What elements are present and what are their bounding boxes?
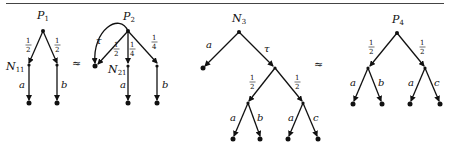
leaf bbox=[316, 137, 321, 142]
svg-text:b: b bbox=[61, 79, 67, 90]
leaf bbox=[438, 102, 443, 107]
svg-text:1: 1 bbox=[295, 74, 299, 82]
label-n3: N3 bbox=[231, 12, 246, 26]
leaf bbox=[27, 101, 32, 106]
label-p1: P1 bbox=[36, 9, 49, 23]
leaf bbox=[55, 101, 60, 106]
svg-text:1: 1 bbox=[152, 34, 156, 42]
leaf bbox=[286, 137, 291, 142]
svg-text:τ: τ bbox=[96, 35, 102, 46]
svg-text:τ: τ bbox=[264, 43, 270, 54]
approx-symbol-1: ≈ bbox=[72, 57, 81, 70]
svg-text:2: 2 bbox=[26, 46, 30, 54]
svg-text:1: 1 bbox=[26, 37, 30, 45]
leaf bbox=[258, 137, 263, 142]
svg-text:b: b bbox=[257, 112, 263, 123]
tree-p4: P4 1 2 1 2 a b a c bbox=[350, 13, 443, 107]
svg-text:1: 1 bbox=[420, 39, 424, 47]
svg-text:2: 2 bbox=[295, 83, 299, 91]
svg-text:2: 2 bbox=[250, 83, 254, 91]
tree-n3: N3 a τ 1 2 1 2 a b a c bbox=[201, 12, 321, 142]
tree-p1: P1 1 2 1 2 N11 a b bbox=[5, 9, 67, 106]
leaf bbox=[201, 66, 206, 71]
leaf bbox=[231, 137, 236, 142]
svg-text:c: c bbox=[434, 77, 440, 88]
label-n11: N11 bbox=[5, 60, 25, 74]
svg-text:c: c bbox=[313, 112, 319, 123]
leaf bbox=[126, 101, 131, 106]
svg-text:1: 1 bbox=[55, 37, 59, 45]
label-p4: P4 bbox=[391, 13, 404, 27]
approx-symbol-2: ≈ bbox=[314, 58, 323, 71]
svg-text:1: 1 bbox=[114, 41, 118, 49]
svg-text:1: 1 bbox=[369, 39, 373, 47]
label-p2: P2 bbox=[122, 10, 135, 24]
leaf bbox=[351, 102, 356, 107]
svg-text:1: 1 bbox=[250, 74, 254, 82]
process-trees-diagram: P1 1 2 1 2 N11 a b ≈ P2 τ 1 2 1 4 1 bbox=[0, 0, 449, 159]
svg-text:1: 1 bbox=[130, 41, 134, 49]
svg-text:a: a bbox=[350, 77, 356, 88]
svg-text:a: a bbox=[19, 79, 25, 90]
svg-text:a: a bbox=[288, 112, 294, 123]
svg-text:b: b bbox=[378, 77, 384, 88]
tree-p2: P2 τ 1 2 1 4 1 4 N21 a b bbox=[93, 10, 169, 106]
svg-text:a: a bbox=[230, 112, 236, 123]
label-n21: N21 bbox=[107, 63, 127, 77]
svg-text:2: 2 bbox=[114, 50, 118, 58]
leaf bbox=[408, 102, 413, 107]
leaf bbox=[380, 102, 385, 107]
svg-text:2: 2 bbox=[369, 48, 373, 56]
svg-text:4: 4 bbox=[152, 43, 157, 51]
leaf bbox=[93, 64, 98, 69]
svg-text:a: a bbox=[120, 79, 126, 90]
svg-text:4: 4 bbox=[130, 50, 135, 58]
leaf bbox=[155, 101, 160, 106]
svg-text:a: a bbox=[408, 77, 414, 88]
svg-text:a: a bbox=[206, 39, 212, 50]
svg-text:2: 2 bbox=[420, 48, 424, 56]
svg-text:2: 2 bbox=[55, 46, 59, 54]
svg-text:b: b bbox=[162, 79, 168, 90]
